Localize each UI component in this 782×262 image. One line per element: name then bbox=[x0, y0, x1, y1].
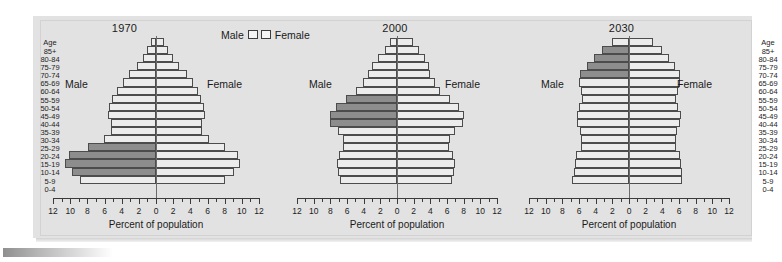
x-axis-title-2030: Percent of population bbox=[529, 219, 729, 230]
x-axis-tick bbox=[122, 198, 123, 204]
x-axis-tick-label: 12 bbox=[724, 206, 733, 216]
x-axis-tick bbox=[380, 198, 381, 204]
bar-female bbox=[156, 111, 205, 119]
bar-female bbox=[156, 127, 202, 135]
bar-male bbox=[580, 127, 629, 135]
bar-female bbox=[629, 119, 680, 127]
bar-male bbox=[575, 159, 629, 167]
x-axis-tick bbox=[430, 198, 431, 204]
x-axis-tick-label: 6 bbox=[577, 206, 582, 216]
x-axis-tick-label: 2 bbox=[378, 206, 383, 216]
bar-female bbox=[156, 54, 173, 62]
bar-female bbox=[397, 135, 450, 143]
bar-male bbox=[117, 87, 156, 95]
x-axis-minor-tick bbox=[130, 198, 131, 202]
pyramid-row bbox=[281, 143, 519, 151]
pyramid-row bbox=[36, 119, 281, 127]
pyramid-row bbox=[519, 127, 752, 135]
x-axis-title-1970: Percent of population bbox=[53, 219, 259, 230]
x-axis-tick bbox=[414, 198, 415, 204]
x-axis-tick bbox=[242, 198, 243, 204]
bar-male bbox=[137, 62, 156, 70]
bar-male bbox=[111, 127, 156, 135]
bar-female bbox=[156, 62, 179, 70]
pyramid-row bbox=[519, 111, 752, 119]
pyramid-row bbox=[519, 38, 752, 46]
pyramid-row bbox=[36, 46, 281, 54]
bar-female bbox=[629, 87, 678, 95]
bar-male bbox=[340, 176, 398, 184]
x-axis-minor-tick bbox=[250, 198, 251, 202]
bar-male bbox=[580, 70, 629, 78]
bar-female bbox=[397, 87, 440, 95]
x-axis-tick-label: 4 bbox=[593, 206, 598, 216]
pyramid-row bbox=[281, 127, 519, 135]
pyramid-row bbox=[36, 62, 281, 70]
bar-female bbox=[156, 70, 187, 78]
bar-female bbox=[156, 95, 201, 103]
pyramid-row bbox=[36, 159, 281, 167]
bar-male bbox=[109, 103, 156, 111]
bar-female bbox=[156, 78, 193, 86]
x-axis-tick-label: 2 bbox=[171, 206, 176, 216]
x-axis-tick-label: 2 bbox=[411, 206, 416, 216]
x-axis-minor-tick bbox=[439, 198, 440, 202]
x-axis-tick bbox=[464, 198, 465, 204]
bar-male bbox=[368, 70, 397, 78]
pyramid-row bbox=[519, 159, 752, 167]
bar-male bbox=[330, 111, 397, 119]
x-axis-minor-tick bbox=[216, 198, 217, 202]
bar-female bbox=[629, 176, 682, 184]
x-axis-minor-tick bbox=[704, 198, 705, 202]
x-axis-tick bbox=[546, 198, 547, 204]
pyramid-row bbox=[519, 119, 752, 127]
male-side-note-1970: Male bbox=[65, 78, 88, 90]
pyramid-row bbox=[519, 54, 752, 62]
bar-female bbox=[629, 78, 680, 86]
center-axis-2000 bbox=[397, 36, 398, 198]
chart-title-2000: 2000 bbox=[276, 22, 514, 34]
bar-male bbox=[65, 159, 156, 167]
bar-male bbox=[338, 127, 397, 135]
bar-female bbox=[156, 46, 168, 54]
male-side-note-2030: Male bbox=[541, 78, 564, 90]
x-axis-tick bbox=[612, 198, 613, 204]
bar-male bbox=[581, 87, 629, 95]
pyramid-row bbox=[36, 135, 281, 143]
bar-male bbox=[330, 119, 397, 127]
x-axis-minor-tick bbox=[113, 198, 114, 202]
bar-male bbox=[372, 62, 397, 70]
bar-male bbox=[343, 135, 397, 143]
pyramid-row bbox=[281, 46, 519, 54]
bar-female bbox=[397, 103, 459, 111]
x-axis-tick-label: 12 bbox=[292, 206, 301, 216]
pyramid-chart-2000: 2000 Percent of population Male Female 1… bbox=[281, 16, 519, 238]
x-axis-minor-tick bbox=[305, 198, 306, 202]
x-axis-minor-tick bbox=[165, 198, 166, 202]
x-axis-tick-label: 2 bbox=[610, 206, 615, 216]
x-axis-tick bbox=[190, 198, 191, 204]
x-axis-tick bbox=[314, 198, 315, 204]
x-axis-tick bbox=[347, 198, 348, 204]
bar-female bbox=[397, 168, 454, 176]
x-axis-tick-label: 10 bbox=[476, 206, 485, 216]
x-axis-tick bbox=[208, 198, 209, 204]
x-axis-minor-tick bbox=[621, 198, 622, 202]
bar-female bbox=[397, 78, 435, 86]
x-axis-tick-label: 10 bbox=[541, 206, 550, 216]
x-axis-tick bbox=[579, 198, 580, 204]
pyramid-row bbox=[519, 151, 752, 159]
bar-male bbox=[576, 151, 629, 159]
bar-female bbox=[629, 159, 681, 167]
bar-female bbox=[397, 111, 464, 119]
x-axis-minor-tick bbox=[472, 198, 473, 202]
bar-male bbox=[108, 111, 156, 119]
x-axis-tick-label: 8 bbox=[560, 206, 565, 216]
x-axis-tick bbox=[87, 198, 88, 204]
x-axis-minor-tick bbox=[671, 198, 672, 202]
x-axis-tick bbox=[297, 198, 298, 204]
center-axis-2030 bbox=[629, 36, 630, 198]
bar-female bbox=[397, 119, 463, 127]
bar-male bbox=[69, 151, 156, 159]
